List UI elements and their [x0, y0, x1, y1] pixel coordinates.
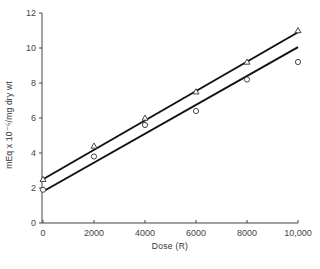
x-tick-label: 10,000 [284, 228, 312, 238]
x-tick-label: 0 [40, 228, 45, 238]
fit-lines [43, 32, 298, 191]
triangle-marker [91, 143, 97, 148]
x-tick-label: 4000 [135, 228, 155, 238]
clipped-caption [0, 262, 320, 269]
chart-plot: 0246810120200040006000800010,000 [0, 0, 320, 269]
x-tick-label: 8000 [237, 228, 257, 238]
fit-line-circles [43, 47, 298, 191]
circle-marker [40, 187, 45, 192]
triangle-marker [295, 28, 301, 33]
y-tick-label: 10 [26, 43, 36, 53]
y-tick-label: 12 [26, 8, 36, 18]
y-tick-label: 0 [31, 218, 36, 228]
circle-marker [193, 108, 198, 113]
x-axis-label: Dose (R) [152, 241, 188, 251]
x-tick-label: 6000 [186, 228, 206, 238]
axes: 0246810120200040006000800010,000 [26, 8, 312, 238]
y-tick-label: 4 [31, 148, 36, 158]
x-tick-label: 2000 [84, 228, 104, 238]
fit-line-triangles [43, 32, 298, 179]
circle-marker [91, 154, 96, 159]
y-tick-label: 8 [31, 78, 36, 88]
circle-marker [142, 122, 147, 127]
circle-marker [295, 59, 300, 64]
y-axis-label: mEq x 10⁻⁵/mg dry wt [4, 81, 14, 169]
triangle-marker [142, 115, 148, 120]
y-tick-label: 2 [31, 183, 36, 193]
circle-marker [244, 77, 249, 82]
y-tick-label: 6 [31, 113, 36, 123]
